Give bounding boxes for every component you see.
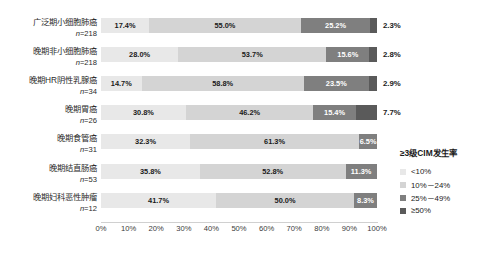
- bar-segment-label: 50.0%: [275, 196, 296, 205]
- stacked-bar: 14.7%58.8%23.5%2.9%: [101, 76, 377, 91]
- category-sample-size: n=218: [0, 29, 97, 38]
- bar-segment: 50.0%: [216, 193, 354, 208]
- bar-segment: 6.5%: [359, 134, 377, 149]
- bar-segment: 2.9%: [369, 76, 377, 91]
- category-sample-size: n=31: [0, 145, 97, 154]
- bar-segment: 28.0%: [101, 47, 178, 62]
- bar-segment-label: 14.7%: [111, 79, 132, 88]
- legend-items: <10%10%－24%25%－49%≥50%: [400, 166, 495, 216]
- x-axis-ticks: 0%10%20%30%40%50%60%70%80%90%100%: [101, 224, 377, 238]
- bar-segment: 53.7%: [178, 47, 326, 62]
- bar-segment-label: 41.7%: [148, 196, 169, 205]
- bar-segment-label: 61.3%: [264, 137, 285, 146]
- bar-segment-label: 15.6%: [337, 50, 358, 59]
- category-sample-size: n=53: [0, 175, 97, 184]
- bar-segment: 2.3%: [370, 18, 376, 33]
- bar-row: 广泛期小细胞肺癌n=21817.4%55.0%25.2%2.3%2.3%: [0, 16, 495, 45]
- bar-segment-label: 15.4%: [324, 108, 345, 117]
- bar-segment-label: 25.2%: [325, 21, 346, 30]
- chart-canvas: 广泛期小细胞肺癌n=21817.4%55.0%25.2%2.3%2.3%晚期非小…: [0, 0, 495, 262]
- legend-item[interactable]: 25%－49%: [400, 192, 495, 203]
- bar-segment-label: 23.5%: [326, 79, 347, 88]
- bar-segment: 17.4%: [101, 18, 149, 33]
- bar-segment: 11.3%: [346, 164, 377, 179]
- bar-segment: 30.8%: [101, 105, 186, 120]
- legend-item-label: ≥50%: [411, 206, 431, 215]
- category-sample-size: n=218: [0, 58, 97, 67]
- x-axis-tick-label: 20%: [149, 224, 164, 233]
- legend-item-label: 10%－24%: [411, 179, 450, 190]
- legend-title: ≥3级CIM发生率: [400, 146, 495, 158]
- legend-swatch-icon: [400, 208, 406, 214]
- legend-item[interactable]: 10%－24%: [400, 179, 495, 190]
- bar-segment: 55.0%: [149, 18, 301, 33]
- bar-segment-label: 6.5%: [360, 137, 377, 146]
- legend-swatch-icon: [400, 182, 406, 188]
- bar-segment-label: 28.0%: [129, 50, 150, 59]
- x-axis-tick-label: 100%: [367, 224, 386, 233]
- x-axis-tick-label: 70%: [287, 224, 302, 233]
- bar-segment: 52.8%: [200, 164, 346, 179]
- category-label: 广泛期小细胞肺癌: [0, 18, 97, 27]
- legend-item[interactable]: <10%: [400, 166, 495, 177]
- x-axis-tick-label: 30%: [176, 224, 191, 233]
- bar-segment: 15.6%: [326, 47, 369, 62]
- chart-legend: ≥3级CIM发生率 <10%10%－24%25%－49%≥50%: [400, 146, 495, 218]
- bar-segment: 35.8%: [101, 164, 200, 179]
- bar-segment: 23.5%: [304, 76, 369, 91]
- bar-segment-label: 58.8%: [212, 79, 233, 88]
- stacked-bar: 35.8%52.8%11.3%: [101, 164, 377, 179]
- category-sample-size: n=26: [0, 116, 97, 125]
- stacked-bar: 41.7%50.0%8.3%: [101, 193, 377, 208]
- category-label: 晚期非小细胞肺癌: [0, 47, 97, 56]
- bar-segment-label: 46.2%: [239, 108, 260, 117]
- bar-row: 晚期HR阴性乳腺癌n=3414.7%58.8%23.5%2.9%2.9%: [0, 74, 495, 103]
- stacked-bar: 32.3%61.3%6.5%: [101, 134, 377, 149]
- x-axis-tick-label: 90%: [342, 224, 357, 233]
- bar-row: 晚期胃癌n=2630.8%46.2%15.4%7.7%7.7%: [0, 103, 495, 132]
- bar-segment: 61.3%: [190, 134, 359, 149]
- bar-outside-value: 7.7%: [383, 105, 401, 120]
- bar-segment-label: 35.8%: [140, 167, 161, 176]
- bar-segment: 25.2%: [301, 18, 371, 33]
- bar-segment-label: 55.0%: [214, 21, 235, 30]
- bar-segment: 14.7%: [101, 76, 142, 91]
- legend-item-label: 25%－49%: [411, 192, 450, 203]
- bar-segment-label: 53.7%: [242, 50, 263, 59]
- legend-item-label: <10%: [411, 167, 431, 176]
- stacked-bar: 28.0%53.7%15.6%2.8%: [101, 47, 377, 62]
- bar-segment-label: 11.3%: [351, 167, 372, 176]
- x-axis-tick-label: 0%: [96, 224, 107, 233]
- bar-segment-label: 32.3%: [135, 137, 156, 146]
- x-axis-tick-label: 10%: [121, 224, 136, 233]
- category-label: 晚期胃癌: [0, 105, 97, 114]
- category-label: 晚期食管癌: [0, 134, 97, 143]
- bar-segment-label: 8.3%: [357, 196, 374, 205]
- bar-segment-label: 52.8%: [262, 167, 283, 176]
- legend-item[interactable]: ≥50%: [400, 205, 495, 216]
- category-label: 晚期HR阴性乳腺癌: [0, 76, 97, 85]
- bar-segment-label: 30.8%: [133, 108, 154, 117]
- x-axis-tick-label: 80%: [314, 224, 329, 233]
- stacked-bar: 30.8%46.2%15.4%7.7%: [101, 105, 377, 120]
- bar-segment: 8.3%: [354, 193, 377, 208]
- legend-swatch-icon: [400, 195, 406, 201]
- bar-segment: 15.4%: [313, 105, 355, 120]
- category-sample-size: n=34: [0, 87, 97, 96]
- stacked-bar: 17.4%55.0%25.2%2.3%: [101, 18, 377, 33]
- x-axis-tick-label: 40%: [204, 224, 219, 233]
- x-axis-tick-label: 60%: [259, 224, 274, 233]
- bar-segment: 32.3%: [101, 134, 190, 149]
- bar-outside-value: 2.3%: [383, 18, 401, 33]
- x-axis-tick-label: 50%: [231, 224, 246, 233]
- category-label: 晚期结直肠癌: [0, 164, 97, 173]
- category-label: 晚期妇科恶性肿瘤: [0, 193, 97, 202]
- bar-segment-label: 17.4%: [115, 21, 136, 30]
- bar-outside-value: 2.9%: [383, 76, 401, 91]
- x-axis-line: [101, 222, 378, 223]
- legend-swatch-icon: [400, 169, 406, 175]
- category-sample-size: n=12: [0, 204, 97, 213]
- bar-segment: 2.8%: [369, 47, 377, 62]
- bar-row: 晚期非小细胞肺癌n=21828.0%53.7%15.6%2.8%2.8%: [0, 45, 495, 74]
- bar-outside-value: 2.8%: [383, 47, 401, 62]
